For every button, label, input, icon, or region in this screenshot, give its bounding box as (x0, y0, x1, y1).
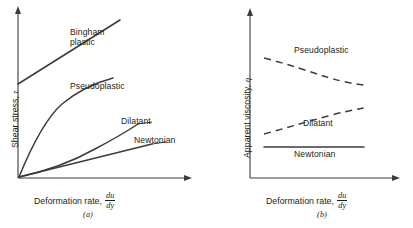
panel-a-fraction-denominator: dy (105, 201, 115, 210)
panel-a-y-axis-label-text: Shear stress, (10, 96, 20, 148)
label-b-dilatant: Dilatant (303, 119, 333, 129)
panel-a-x-axis-arrow (184, 175, 192, 181)
panel-b: Pseudoplastic Dilatant Newtonian Apparen… (206, 0, 413, 228)
panel-b-x-axis-label: Deformation rate, du dy (266, 192, 347, 211)
panel-a-caption: (a) (0, 210, 176, 219)
panel-b-fraction-denominator: dy (337, 201, 347, 210)
panel-a-x-axis-label: Deformation rate, du dy (34, 192, 115, 211)
panel-b-y-axis-label: Apparent viscosity, η (242, 78, 252, 158)
label-b-pseudoplastic: Pseudoplastic (294, 46, 349, 56)
panel-a-y-axis-label: Shear stress, τ (10, 91, 20, 148)
label-bingham-plastic: Bingham plastic (70, 28, 105, 48)
label-pseudoplastic: Pseudoplastic (70, 82, 125, 92)
panel-b-y-axis-symbol: η (242, 78, 252, 82)
panel-a-fraction-numerator: du (105, 192, 115, 202)
panel-a-y-axis-symbol: τ (10, 91, 20, 94)
panel-a-y-axis-arrow (15, 6, 21, 14)
curve-b-pseudoplastic (264, 58, 364, 85)
label-dilatant: Dilatant (121, 117, 151, 127)
label-newtonian: Newtonian (134, 136, 175, 146)
rheology-figure: Bingham plastic Pseudoplastic Dilatant N… (0, 0, 413, 228)
panel-a-x-axis-fraction: du dy (105, 192, 115, 211)
curve-bingham-plastic (18, 20, 120, 84)
panel-a-x-axis-label-text: Deformation rate, (34, 196, 102, 206)
panel-b-x-axis-arrow (392, 175, 400, 181)
panel-b-caption: (b) (234, 210, 410, 219)
panel-b-x-axis-fraction: du dy (337, 192, 347, 211)
label-b-newtonian: Newtonian (294, 150, 335, 160)
panel-b-y-axis-label-text: Apparent viscosity, (242, 85, 252, 158)
curve-newtonian (19, 144, 152, 177)
panel-b-y-axis-arrow (247, 8, 253, 16)
panel-b-x-axis-label-text: Deformation rate, (266, 196, 334, 206)
curve-dilatant (19, 124, 138, 177)
panel-b-fraction-numerator: du (337, 192, 347, 202)
panel-a: Bingham plastic Pseudoplastic Dilatant N… (0, 0, 206, 228)
